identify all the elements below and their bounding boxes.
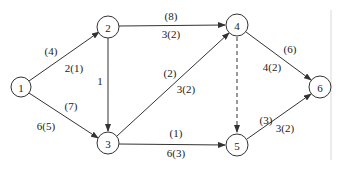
edge-5-6-flow: 3(2) bbox=[276, 122, 295, 135]
node-1-label: 1 bbox=[18, 82, 24, 94]
edge-3-5 bbox=[119, 144, 225, 145]
node-2: 2 bbox=[97, 16, 119, 38]
node-2-label: 2 bbox=[105, 22, 111, 34]
node-4: 4 bbox=[226, 14, 248, 36]
node-3-label: 3 bbox=[105, 138, 111, 150]
network-diagram: (4) 2(1) (7) 6(5) (8) 3(2) 1 (2) 3(2) (1… bbox=[0, 0, 339, 171]
edge-2-4 bbox=[119, 25, 225, 26]
node-5: 5 bbox=[226, 134, 248, 156]
edge-1-2-capacity: (4) bbox=[45, 45, 58, 58]
node-5-label: 5 bbox=[234, 140, 240, 152]
node-3: 3 bbox=[97, 132, 119, 154]
edge-3-4 bbox=[117, 33, 229, 136]
node-4-label: 4 bbox=[234, 20, 240, 32]
edge-3-4-flow: 3(2) bbox=[177, 83, 196, 96]
edge-4-6-capacity: (6) bbox=[284, 43, 297, 56]
edge-1-3-capacity: (7) bbox=[65, 100, 78, 113]
edge-2-3-flow: 1 bbox=[97, 75, 103, 87]
node-6-label: 6 bbox=[317, 82, 323, 94]
edge-3-5-capacity: (1) bbox=[170, 127, 183, 140]
edge-5-6-capacity: (3) bbox=[260, 114, 273, 127]
edge-3-5-flow: 6(3) bbox=[167, 147, 186, 160]
edge-1-3-flow: 6(5) bbox=[37, 120, 56, 133]
edge-3-4-capacity: (2) bbox=[164, 67, 177, 80]
edge-4-6-flow: 4(2) bbox=[263, 61, 282, 74]
edge-2-4-flow: 3(2) bbox=[162, 28, 181, 41]
edge-1-2-flow: 2(1) bbox=[65, 62, 84, 75]
node-6: 6 bbox=[309, 76, 331, 98]
edge-2-4-capacity: (8) bbox=[165, 10, 178, 23]
node-1: 1 bbox=[11, 77, 31, 97]
